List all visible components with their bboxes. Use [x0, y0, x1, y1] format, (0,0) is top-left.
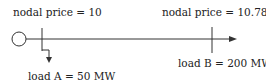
bus-a-price-label: nodal price = 10	[13, 6, 102, 18]
load-b-label: load B = 200 MW	[178, 57, 266, 69]
arrow-down-icon	[46, 57, 52, 63]
generator-circle-icon	[12, 32, 26, 46]
load-a-connector	[42, 50, 49, 58]
arrow-right-icon	[229, 36, 237, 42]
load-a-label: load A = 50 MW	[28, 70, 116, 82]
network-diagram: nodal price = 10 nodal price = 10.78 loa…	[0, 0, 266, 84]
bus-b-price-label: nodal price = 10.78	[162, 6, 266, 18]
